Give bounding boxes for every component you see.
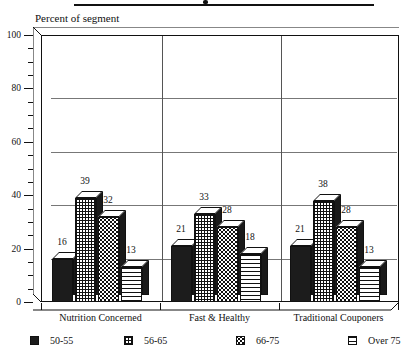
- legend-swatch-icon: [124, 336, 133, 345]
- legend-item[interactable]: 56-65: [124, 335, 167, 346]
- bar-column: 16: [52, 259, 73, 302]
- legend-label: 56-65: [144, 335, 167, 346]
- bar-column: 39: [75, 198, 96, 302]
- bar-value-label: 39: [80, 176, 90, 186]
- legend-item[interactable]: 50-55: [30, 335, 73, 346]
- x-category-label: Traditional Couponers: [294, 312, 384, 323]
- legend-label: 50-55: [50, 335, 73, 346]
- x-tick: [160, 303, 161, 310]
- bar-value-label: 13: [364, 245, 374, 255]
- y-tick-label: 40: [12, 190, 22, 200]
- chart-legend: 50-5556-6566-75Over 75: [0, 335, 408, 361]
- y-tick-major: [24, 35, 33, 36]
- y-tick-major: [24, 88, 33, 89]
- bar-front-face: [290, 246, 311, 302]
- bar-front-face: [240, 254, 261, 302]
- legend-label: 66-75: [256, 335, 279, 346]
- bar-side-face: [261, 247, 268, 295]
- bar-front-face: [313, 201, 334, 302]
- bar-value-label: 21: [176, 224, 186, 234]
- bar-column: 28: [336, 227, 357, 302]
- bar-chart: Percent of segment 020406080100 16393213…: [0, 0, 408, 330]
- bar-column: 33: [194, 214, 215, 302]
- y-tick-label: 100: [7, 30, 21, 40]
- bar-front-face: [98, 217, 119, 302]
- legend-item[interactable]: Over 75: [348, 335, 401, 346]
- bar-front-face: [171, 246, 192, 302]
- y-tick-major: [24, 142, 33, 143]
- bar-front-face: [121, 267, 142, 302]
- y-tick-major: [24, 195, 33, 196]
- y-axis-label: Percent of segment: [35, 12, 119, 24]
- legend-swatch-icon: [348, 336, 357, 345]
- x-category-label: Fast & Healthy: [189, 312, 250, 323]
- bar-value-label: 38: [318, 179, 328, 189]
- x-tick: [41, 303, 42, 310]
- y-tick-label: 80: [12, 83, 22, 93]
- bar-column: 38: [313, 201, 334, 302]
- bar-front-face: [359, 267, 380, 302]
- bar-front-face: [75, 198, 96, 302]
- y-tick-label: 60: [12, 137, 22, 147]
- x-tick: [398, 303, 399, 310]
- legend-item[interactable]: 66-75: [236, 335, 279, 346]
- bars-layer: 163932132133281821382813: [41, 35, 399, 302]
- x-axis: Nutrition ConcernedFast & HealthyTraditi…: [0, 303, 408, 331]
- bar-value-label: 28: [341, 205, 351, 215]
- bar-column: 32: [98, 217, 119, 302]
- bar-column: 13: [359, 267, 380, 302]
- y-tick-label: 20: [12, 244, 22, 254]
- bar-column: 21: [171, 246, 192, 302]
- legend-swatch-icon: [236, 336, 245, 345]
- bar-front-face: [194, 214, 215, 302]
- bar-value-label: 16: [57, 237, 67, 247]
- legend-label: Over 75: [368, 335, 401, 346]
- bar-value-label: 28: [222, 205, 232, 215]
- bar-value-label: 33: [199, 192, 209, 202]
- bar-front-face: [52, 259, 73, 302]
- bar-front-face: [217, 227, 238, 302]
- bar-value-label: 32: [103, 195, 113, 205]
- bar-value-label: 18: [245, 232, 255, 242]
- x-tick: [279, 303, 280, 310]
- bar-column: 21: [290, 246, 311, 302]
- bar-value-label: 21: [295, 224, 305, 234]
- bar-column: 18: [240, 254, 261, 302]
- x-category-label: Nutrition Concerned: [59, 312, 141, 323]
- y-tick-major: [24, 249, 33, 250]
- bar-value-label: 13: [126, 245, 136, 255]
- legend-swatch-icon: [30, 336, 39, 345]
- bar-column: 28: [217, 227, 238, 302]
- bar-front-face: [336, 227, 357, 302]
- bar-column: 13: [121, 267, 142, 302]
